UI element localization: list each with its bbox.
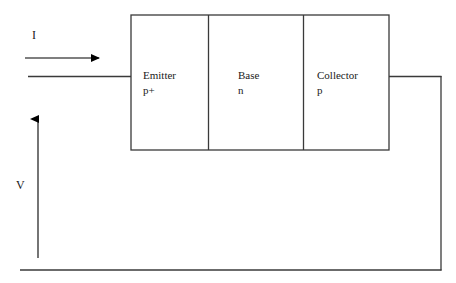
region-label-emitter: Emitter p+ xyxy=(143,68,176,98)
current-symbol-label: I xyxy=(32,28,36,43)
region-label-collector: Collector p xyxy=(317,68,358,98)
diagram-canvas: Emitter p+ Base n Collector p I V xyxy=(0,0,456,283)
region-label-base: Base n xyxy=(238,68,259,98)
region-label-base-doping: n xyxy=(238,83,259,98)
circuit-diagram xyxy=(0,0,456,283)
region-label-collector-doping: p xyxy=(317,83,358,98)
voltage-symbol-label: V xyxy=(16,178,25,193)
region-label-collector-name: Collector xyxy=(317,69,358,81)
region-label-emitter-doping: p+ xyxy=(143,83,176,98)
region-label-emitter-name: Emitter xyxy=(143,69,176,81)
region-label-base-name: Base xyxy=(238,69,259,81)
